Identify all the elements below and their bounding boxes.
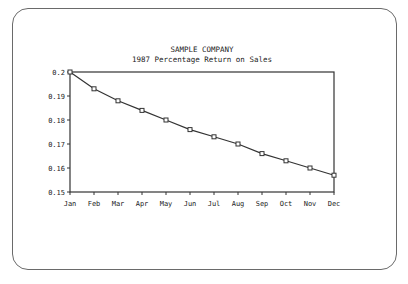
x-tick-label: Dec — [328, 200, 341, 208]
data-point-marker — [332, 173, 336, 177]
y-tick-label: 0.17 — [48, 141, 65, 149]
x-tick-label: Aug — [232, 200, 245, 208]
y-axis: 0.20.190.180.170.160.15 — [48, 69, 70, 197]
data-point-marker — [212, 135, 216, 139]
y-tick-label: 0.18 — [48, 117, 65, 125]
data-point-marker — [284, 159, 288, 163]
x-tick-label: Sep — [256, 200, 269, 208]
data-point-marker — [260, 152, 264, 156]
data-point-marker — [116, 99, 120, 103]
x-tick-label: May — [160, 200, 173, 208]
x-tick-label: Jul — [208, 200, 221, 208]
data-series — [68, 70, 336, 177]
data-point-marker — [308, 166, 312, 170]
data-point-marker — [188, 128, 192, 132]
y-tick-label: 0.2 — [52, 69, 65, 77]
y-tick-label: 0.15 — [48, 189, 65, 197]
plot-area — [70, 72, 334, 192]
x-tick-label: Mar — [112, 200, 125, 208]
y-tick-label: 0.19 — [48, 93, 65, 101]
x-tick-label: Feb — [88, 200, 101, 208]
data-point-marker — [236, 142, 240, 146]
x-tick-label: Oct — [280, 200, 293, 208]
x-tick-label: Jan — [64, 200, 77, 208]
y-tick-label: 0.16 — [48, 165, 65, 173]
data-point-marker — [140, 108, 144, 112]
chart-subtitle: 1987 Percentage Return on Sales — [132, 55, 272, 64]
data-point-marker — [68, 70, 72, 74]
x-tick-label: Apr — [136, 200, 149, 208]
x-tick-label: Nov — [304, 200, 317, 208]
x-axis: JanFebMarAprMayJunJulAugSepOctNovDec — [64, 192, 341, 208]
x-tick-label: Jun — [184, 200, 197, 208]
data-point-marker — [92, 87, 96, 91]
chart-title: SAMPLE COMPANY — [170, 45, 234, 54]
data-point-marker — [164, 118, 168, 122]
line-chart: SAMPLE COMPANY 1987 Percentage Return on… — [0, 0, 408, 284]
series-line — [70, 72, 334, 175]
